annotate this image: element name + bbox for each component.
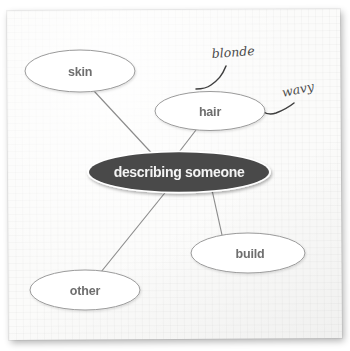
screenshot-canvas: skin hair build other describing someone… bbox=[0, 0, 350, 351]
node-skin[interactable]: skin bbox=[25, 50, 135, 92]
node-build-label: build bbox=[236, 247, 265, 261]
edge-center-build bbox=[212, 190, 222, 235]
node-center-label: describing someone bbox=[114, 164, 245, 180]
node-build[interactable]: build bbox=[191, 233, 305, 273]
node-center[interactable]: describing someone bbox=[87, 151, 271, 194]
edge-skin-center bbox=[94, 91, 158, 160]
node-other[interactable]: other bbox=[30, 270, 140, 310]
node-other-label: other bbox=[70, 284, 101, 298]
node-hair-label: hair bbox=[199, 105, 221, 119]
annotation-wavy[interactable]: wavy bbox=[281, 78, 317, 100]
hook-wavy-to-hair bbox=[262, 103, 294, 114]
annotation-blonde-label: blonde bbox=[211, 43, 255, 61]
edge-center-other bbox=[101, 189, 168, 272]
node-hair[interactable]: hair bbox=[155, 92, 265, 131]
mind-map-diagram: skin hair build other describing someone… bbox=[0, 0, 350, 351]
annotation-wavy-label: wavy bbox=[281, 78, 317, 100]
hook-blonde-to-hair bbox=[196, 66, 226, 89]
annotation-blonde[interactable]: blonde bbox=[211, 43, 255, 61]
node-skin-label: skin bbox=[68, 65, 92, 79]
